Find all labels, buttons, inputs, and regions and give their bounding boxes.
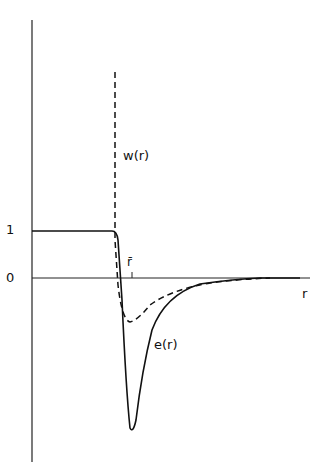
- w-label: w(r): [123, 148, 149, 163]
- e-label: e(r): [154, 337, 178, 352]
- y-tick-0: 0: [6, 270, 14, 285]
- y-tick-1: 1: [6, 222, 14, 237]
- x-axis-label: r: [302, 286, 307, 301]
- e-curve: [32, 231, 300, 430]
- rbar-label: r̄: [127, 255, 132, 269]
- w-curve: [115, 72, 270, 322]
- chart-canvas: [0, 0, 326, 476]
